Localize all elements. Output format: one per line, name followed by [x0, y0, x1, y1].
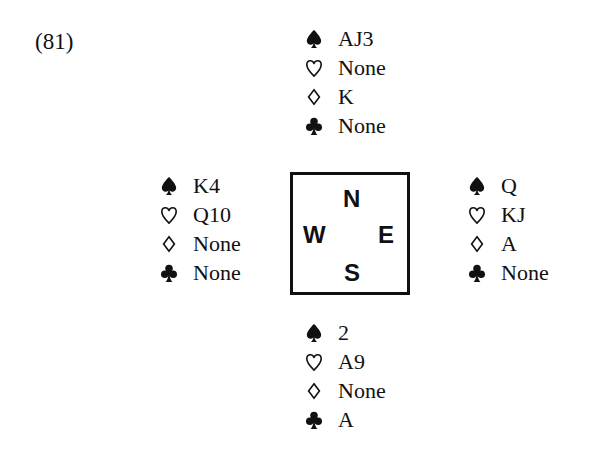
compass-east-label: E	[378, 223, 394, 247]
south-spades-holding: 2	[338, 322, 349, 344]
diamond-icon	[305, 87, 323, 107]
compass-box: N W E S	[290, 172, 410, 295]
club-icon	[468, 263, 486, 283]
south-clubs-line: A	[305, 405, 386, 434]
heart-icon	[305, 58, 323, 78]
south-hand: 2 A9 None A	[305, 318, 386, 434]
north-spades-line: AJ3	[305, 24, 386, 53]
club-icon	[305, 410, 323, 430]
south-hearts-holding: A9	[338, 351, 365, 373]
east-diamonds-holding: A	[501, 233, 517, 255]
west-hand: K4 Q10 None None	[160, 171, 241, 287]
east-spades-line: Q	[468, 171, 549, 200]
north-hearts-line: None	[305, 53, 386, 82]
east-clubs-line: None	[468, 258, 549, 287]
spade-icon	[305, 323, 323, 343]
compass-south-label: S	[344, 261, 360, 285]
east-spades-holding: Q	[501, 175, 517, 197]
spade-icon	[468, 176, 486, 196]
north-hearts-holding: None	[338, 57, 386, 79]
heart-icon	[160, 205, 178, 225]
diamond-icon	[468, 234, 486, 254]
diamond-icon	[305, 381, 323, 401]
east-clubs-holding: None	[501, 262, 549, 284]
south-spades-line: 2	[305, 318, 386, 347]
heart-icon	[468, 205, 486, 225]
north-diamonds-holding: K	[338, 86, 354, 108]
heart-icon	[305, 352, 323, 372]
west-spades-line: K4	[160, 171, 241, 200]
north-diamonds-line: K	[305, 82, 386, 111]
south-diamonds-holding: None	[338, 380, 386, 402]
east-hearts-holding: KJ	[501, 204, 525, 226]
north-spades-holding: AJ3	[338, 28, 373, 50]
compass-west-label: W	[303, 223, 326, 247]
south-hearts-line: A9	[305, 347, 386, 376]
west-spades-holding: K4	[193, 175, 220, 197]
east-hand: Q KJ A None	[468, 171, 549, 287]
north-clubs-holding: None	[338, 115, 386, 137]
spade-icon	[160, 176, 178, 196]
west-diamonds-holding: None	[193, 233, 241, 255]
spade-icon	[305, 29, 323, 49]
club-icon	[160, 263, 178, 283]
east-diamonds-line: A	[468, 229, 549, 258]
club-icon	[305, 116, 323, 136]
west-clubs-line: None	[160, 258, 241, 287]
south-diamonds-line: None	[305, 376, 386, 405]
east-hearts-line: KJ	[468, 200, 549, 229]
west-hearts-line: Q10	[160, 200, 241, 229]
west-hearts-holding: Q10	[193, 204, 231, 226]
problem-number: (81)	[35, 30, 73, 53]
south-clubs-holding: A	[338, 409, 354, 431]
west-diamonds-line: None	[160, 229, 241, 258]
compass-north-label: N	[343, 187, 360, 211]
west-clubs-holding: None	[193, 262, 241, 284]
north-clubs-line: None	[305, 111, 386, 140]
diamond-icon	[160, 234, 178, 254]
north-hand: AJ3 None K None	[305, 24, 386, 140]
